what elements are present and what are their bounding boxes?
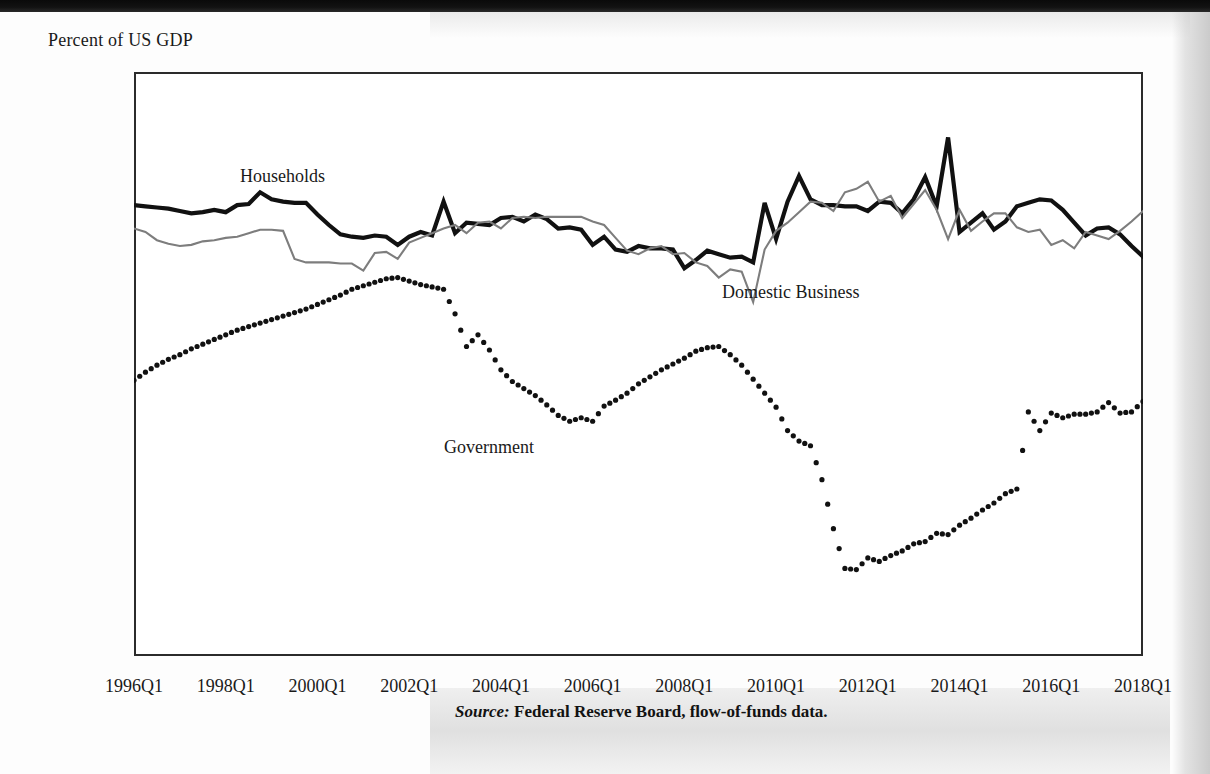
scan-top-edge-artifact <box>0 0 1210 12</box>
series-canvas <box>134 72 1143 656</box>
y-axis-tick-label-group: 10.00%5.00%0.00%−5.00%−10.00%−15.00% <box>0 0 128 774</box>
x-axis-tick-label: 2002Q1 <box>380 676 438 697</box>
series-government <box>134 275 1143 572</box>
x-axis-tick-label-group: 1996Q11998Q12000Q12002Q12004Q12006Q12008… <box>0 676 1210 704</box>
plot-area <box>134 72 1143 656</box>
x-axis-tick-label: 2010Q1 <box>747 676 805 697</box>
x-axis-tick-label: 2006Q1 <box>564 676 622 697</box>
scan-top-smudge-artifact <box>430 12 1190 38</box>
series-label-domestic-business: Domestic Business <box>722 282 860 303</box>
source-keyword: Source: <box>455 702 510 721</box>
x-axis-tick-label: 2000Q1 <box>288 676 346 697</box>
x-axis-tick-label: 2004Q1 <box>472 676 530 697</box>
x-axis-tick-label: 1996Q1 <box>105 676 163 697</box>
x-axis-tick-label: 1998Q1 <box>197 676 255 697</box>
x-axis-tick-label: 2012Q1 <box>839 676 897 697</box>
x-axis-tick-label: 2008Q1 <box>655 676 713 697</box>
x-axis-tick-label: 2014Q1 <box>931 676 989 697</box>
source-text: Federal Reserve Board, flow-of-funds dat… <box>510 702 828 721</box>
x-axis-tick-label: 2018Q1 <box>1114 676 1172 697</box>
scan-right-edge-artifact <box>1172 12 1210 774</box>
x-axis-tick-label: 2016Q1 <box>1022 676 1080 697</box>
series-label-government: Government <box>444 437 534 458</box>
source-note: Source: Federal Reserve Board, flow-of-f… <box>455 702 828 722</box>
series-label-households: Households <box>240 166 325 187</box>
series-households <box>134 137 1143 268</box>
